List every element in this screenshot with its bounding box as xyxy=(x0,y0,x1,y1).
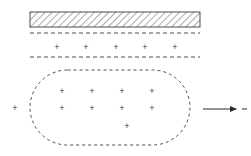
diagram-canvas: + + + + + + + + + + + + + + + xyxy=(0,0,251,156)
charge-symbol: + xyxy=(59,86,64,96)
charge-symbol: + xyxy=(149,103,154,113)
charge-symbol: + xyxy=(59,103,64,113)
charge-symbol: + xyxy=(119,103,124,113)
stadium-charges: + + + + + + + + + xyxy=(59,86,154,131)
stadium-outline xyxy=(30,70,190,145)
charge-symbol: + xyxy=(149,86,154,96)
charge-symbol: + xyxy=(124,121,129,131)
diagram-svg: + + + + + + + + + + + + + + + xyxy=(0,0,251,156)
charge-symbol: + xyxy=(113,42,118,52)
charge-symbol: + xyxy=(54,42,59,52)
dashed-stadium-region xyxy=(30,70,190,145)
slab-charge-row: + + + + + xyxy=(54,42,177,52)
charge-symbol: + xyxy=(89,103,94,113)
charge-symbol: + xyxy=(89,86,94,96)
charge-symbol: + xyxy=(119,86,124,96)
charge-symbol: + xyxy=(172,42,177,52)
charge-symbol: + xyxy=(142,42,147,52)
external-charge-group: + xyxy=(12,103,17,113)
charge-symbol: + xyxy=(12,103,17,113)
hatched-slab-group xyxy=(30,12,200,27)
charge-symbol: + xyxy=(83,42,88,52)
hatched-slab-fill xyxy=(30,12,200,27)
